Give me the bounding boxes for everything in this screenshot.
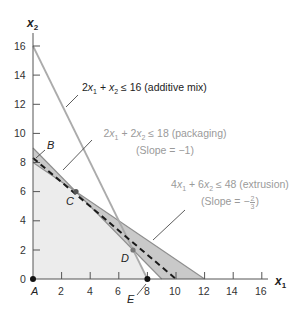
point-e-label: E bbox=[127, 293, 134, 305]
point-a-marker bbox=[30, 276, 36, 282]
x-tick-label: 16 bbox=[255, 285, 267, 297]
point-c-marker bbox=[73, 189, 78, 194]
x-tick-label: 4 bbox=[87, 285, 93, 297]
additive-mix-label: 2x1 + x2 ≤ 16 (additive mix) bbox=[82, 81, 207, 98]
y-tick-label: 4 bbox=[20, 214, 26, 226]
x-tick-label: 12 bbox=[198, 285, 210, 297]
x-tick-label: 6 bbox=[115, 285, 121, 297]
x-tick-label: 8 bbox=[144, 285, 150, 297]
point-c-label: C bbox=[66, 195, 74, 207]
packaging-leader bbox=[63, 140, 92, 170]
y-tick-label: 16 bbox=[14, 40, 26, 52]
extrusion-label: 4x1 + 6x2 ≤ 48 (extrusion) (Slope = −23) bbox=[164, 178, 296, 210]
packaging-label: 2x1 + 2x2 ≤ 18 (packaging) (Slope = −1) bbox=[96, 127, 234, 156]
y-axis-label: x2 bbox=[27, 16, 38, 32]
point-b-label: B bbox=[47, 139, 54, 151]
y-tick-label: 8 bbox=[20, 156, 26, 168]
extrusion-leader bbox=[153, 210, 185, 240]
feasible-region bbox=[33, 163, 147, 280]
y-tick-label: 12 bbox=[14, 98, 26, 110]
point-a-label: A bbox=[31, 285, 38, 297]
x-tick-label: 10 bbox=[169, 285, 181, 297]
packaging-slope: (Slope = −1) bbox=[96, 144, 234, 156]
y-tick-label: 2 bbox=[20, 244, 26, 256]
y-tick-label: 0 bbox=[20, 273, 26, 285]
point-d-marker bbox=[130, 247, 135, 252]
x-tick-label: 14 bbox=[226, 285, 238, 297]
lp-graph bbox=[0, 0, 298, 318]
extrusion-slope: (Slope = −23) bbox=[164, 195, 296, 210]
x-axis-label: x1 bbox=[275, 274, 286, 290]
y-tick-label: 14 bbox=[14, 69, 26, 81]
x-tick-label: 2 bbox=[58, 285, 64, 297]
point-d-label: D bbox=[121, 252, 129, 264]
y-tick-label: 6 bbox=[20, 185, 26, 197]
y-tick-label: 10 bbox=[14, 127, 26, 139]
point-e-marker bbox=[144, 276, 150, 282]
additive-leader bbox=[66, 95, 78, 107]
